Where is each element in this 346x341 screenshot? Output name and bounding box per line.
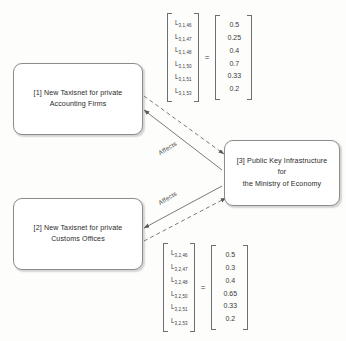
- matrix-symbol-row: L3,1,53: [175, 85, 192, 99]
- matrix-symbol-row: L3,2,47: [171, 261, 188, 275]
- matrix-symbol-row: L3,2,46: [171, 247, 188, 261]
- matrix-bottom-symbols: L3,2,46L3,2,47L3,2,48L3,2,50L3,2,51L3,2,…: [163, 243, 195, 332]
- node-new-taxisnet-customs-offices[interactable]: [2] New Taxisnet for private Customs Off…: [13, 198, 143, 270]
- matrix-value-row: 0.25: [223, 32, 245, 45]
- matrix-value-row: 0.5: [223, 19, 245, 32]
- diagram-canvas: [1] New Taxisnet for private Accounting …: [0, 0, 346, 341]
- node-new-taxisnet-accounting-firms[interactable]: [1] New Taxisnet for private Accounting …: [13, 63, 143, 135]
- matrix-value-row: 0.2: [219, 313, 241, 326]
- matrix-value-row: 0.65: [219, 288, 241, 301]
- matrix-value-row: 0.33: [223, 70, 245, 83]
- matrix-value-row: 0.5: [219, 249, 241, 262]
- node-1-label: [1] New Taxisnet for private Accounting …: [34, 88, 123, 111]
- edge-3-to-2: [144, 186, 222, 228]
- matrix-symbol-row: L3,2,51: [171, 301, 188, 315]
- matrix-bottom: L3,2,46L3,2,47L3,2,48L3,2,50L3,2,51L3,2,…: [163, 243, 248, 332]
- matrix-symbol-row: L3,2,53: [171, 315, 188, 329]
- edge-2-to-3: [144, 198, 226, 241]
- matrix-bottom-values: 0.50.30.40.650.330.2: [211, 245, 248, 330]
- matrix-value-row: 0.4: [223, 45, 245, 58]
- matrix-value-row: 0.4: [219, 275, 241, 288]
- matrix-bottom-equals: =: [201, 283, 206, 292]
- matrix-symbol-row: L3,1,50: [175, 58, 192, 72]
- matrix-top: L3,1,46L3,1,47L3,1,48L3,1,50L3,1,51L3,1,…: [167, 13, 252, 102]
- matrix-value-row: 0.2: [223, 83, 245, 96]
- matrix-symbol-row: L3,2,50: [171, 288, 188, 302]
- matrix-top-values: 0.50.250.40.70.330.2: [215, 15, 252, 100]
- edge-3-to-1: [144, 110, 222, 170]
- matrix-value-row: 0.3: [219, 262, 241, 275]
- edge-1-to-3: [144, 96, 224, 154]
- matrix-top-equals: =: [205, 53, 210, 62]
- matrix-symbol-row: L3,1,46: [175, 17, 192, 31]
- matrix-symbol-row: L3,1,47: [175, 31, 192, 45]
- matrix-value-row: 0.7: [223, 58, 245, 71]
- node-2-label: [2] New Taxisnet for private Customs Off…: [34, 223, 123, 246]
- matrix-symbol-row: L3,2,48: [171, 274, 188, 288]
- node-public-key-infrastructure[interactable]: [3] Public Key Infrastructure for the Mi…: [224, 140, 340, 206]
- matrix-symbol-row: L3,1,48: [175, 44, 192, 58]
- node-3-label: [3] Public Key Infrastructure for the Mi…: [232, 156, 332, 190]
- matrix-top-symbols: L3,1,46L3,1,47L3,1,48L3,1,50L3,1,51L3,1,…: [167, 13, 199, 102]
- matrix-value-row: 0.33: [219, 300, 241, 313]
- matrix-symbol-row: L3,1,51: [175, 71, 192, 85]
